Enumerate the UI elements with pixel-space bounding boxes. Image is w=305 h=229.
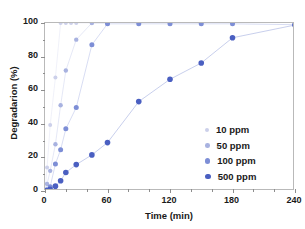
x-tick-label-240: 240 <box>279 195 305 205</box>
data-point <box>58 178 64 184</box>
data-point <box>69 23 73 25</box>
x-tick-label-60: 60 <box>92 195 122 205</box>
x-tick-major-180 <box>233 189 234 193</box>
data-point <box>73 162 79 168</box>
data-point <box>74 105 79 110</box>
x-tick-minor-80 <box>128 189 129 192</box>
x-tick-major-0 <box>45 189 46 193</box>
data-point <box>89 42 94 47</box>
x-tick-minor-160 <box>212 189 213 192</box>
y-tick-major-100 <box>41 23 45 24</box>
y-tick-minor-90 <box>43 40 46 41</box>
data-point <box>53 75 57 79</box>
x-tick-label-0: 0 <box>29 195 59 205</box>
data-point <box>136 23 141 26</box>
data-point <box>53 142 57 146</box>
legend-label: 10 ppm <box>216 124 249 136</box>
data-point <box>168 23 173 26</box>
data-point <box>63 126 68 131</box>
y-tick-minor-70 <box>43 73 46 74</box>
legend-item-10-ppm[interactable]: 10 ppm <box>205 124 256 136</box>
y-tick-label-40: 40 <box>12 117 38 127</box>
y-tick-label-0: 0 <box>12 184 38 194</box>
legend-item-50-ppm[interactable]: 50 ppm <box>205 140 256 152</box>
chart-legend: 10 ppm50 ppm100 ppm500 ppm <box>205 124 256 183</box>
x-tick-minor-140 <box>191 189 192 192</box>
y-tick-label-20: 20 <box>12 150 38 160</box>
x-tick-minor-20 <box>66 189 67 192</box>
legend-item-500-ppm[interactable]: 500 ppm <box>205 171 256 183</box>
x-tick-minor-220 <box>274 189 275 192</box>
data-point <box>53 161 58 166</box>
data-point <box>74 23 78 25</box>
y-tick-label-100: 100 <box>12 16 38 26</box>
data-point <box>105 140 111 146</box>
y-tick-minor-50 <box>43 107 46 108</box>
data-point <box>74 37 78 41</box>
legend-label: 100 ppm <box>217 155 256 167</box>
legend-marker-icon <box>205 143 210 148</box>
y-tick-major-60 <box>41 90 45 91</box>
legend-marker-icon <box>205 174 211 180</box>
data-point <box>64 23 68 25</box>
data-point <box>89 152 95 158</box>
data-point <box>48 123 52 127</box>
y-tick-label-60: 60 <box>12 83 38 93</box>
y-tick-major-40 <box>41 124 45 125</box>
data-point <box>58 103 62 107</box>
data-point <box>48 169 52 173</box>
data-point <box>198 60 204 66</box>
data-point <box>292 23 293 28</box>
y-tick-major-20 <box>41 157 45 158</box>
x-tick-minor-40 <box>87 189 88 192</box>
data-point <box>199 23 204 26</box>
y-tick-major-80 <box>41 57 45 58</box>
x-tick-label-180: 180 <box>217 195 247 205</box>
legend-label: 500 ppm <box>218 171 257 183</box>
data-point <box>64 68 68 72</box>
y-tick-label-80: 80 <box>12 50 38 60</box>
x-tick-major-120 <box>170 189 171 193</box>
data-point <box>136 99 142 105</box>
legend-label: 50 ppm <box>217 140 250 152</box>
data-point <box>45 165 49 169</box>
x-tick-minor-200 <box>253 189 254 192</box>
data-point <box>53 183 59 189</box>
degradation-kinetics-chart: Degradarion (%) 020406080100 06012018024… <box>0 0 305 229</box>
x-tick-label-120: 120 <box>154 195 184 205</box>
y-tick-minor-30 <box>43 141 46 142</box>
x-tick-minor-100 <box>149 189 150 192</box>
data-point <box>167 76 173 82</box>
x-axis-title: Time (min) <box>44 210 294 221</box>
x-tick-major-240 <box>295 189 296 193</box>
data-point <box>230 35 236 41</box>
x-tick-major-60 <box>108 189 109 193</box>
data-point <box>58 147 63 152</box>
data-point <box>63 170 69 176</box>
y-tick-minor-10 <box>43 174 46 175</box>
legend-marker-icon <box>205 128 209 132</box>
data-point <box>59 23 63 25</box>
legend-item-100-ppm[interactable]: 100 ppm <box>205 155 256 167</box>
legend-marker-icon <box>205 158 210 163</box>
data-point <box>230 23 235 26</box>
plot-frame <box>44 22 294 190</box>
